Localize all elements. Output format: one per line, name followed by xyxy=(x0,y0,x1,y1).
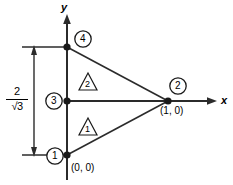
x-axis-label: x xyxy=(221,95,227,106)
node-dot-1 xyxy=(63,151,70,158)
y-axis-arrowhead xyxy=(63,14,71,24)
node-coord-2: (1, 0) xyxy=(160,106,183,116)
dimension-label: 2 √3 xyxy=(6,86,28,112)
x-axis-arrowhead xyxy=(207,97,217,105)
node-label-4: 4 xyxy=(80,34,86,44)
mesh-diagram-svg xyxy=(0,0,233,185)
node-dot-3 xyxy=(63,97,70,104)
element-label-1: 1 xyxy=(85,125,90,134)
node-label-1: 1 xyxy=(52,151,58,161)
y-axis-label: y xyxy=(61,2,67,13)
node-label-3: 3 xyxy=(51,96,57,106)
node-dot-4 xyxy=(63,43,70,50)
element-label-2: 2 xyxy=(85,80,90,89)
node-dot-2 xyxy=(164,97,171,104)
mesh-edge-4-2 xyxy=(67,47,168,101)
dimension-numerator: 2 xyxy=(6,86,28,98)
node-coord-1: (0, 0) xyxy=(71,163,94,173)
dimension-denominator: √3 xyxy=(6,101,28,113)
node-label-2: 2 xyxy=(175,81,181,91)
figure-canvas: y x 4 2 3 1 2 1 (0, 0) (1, 0) 2 √3 xyxy=(0,0,233,185)
